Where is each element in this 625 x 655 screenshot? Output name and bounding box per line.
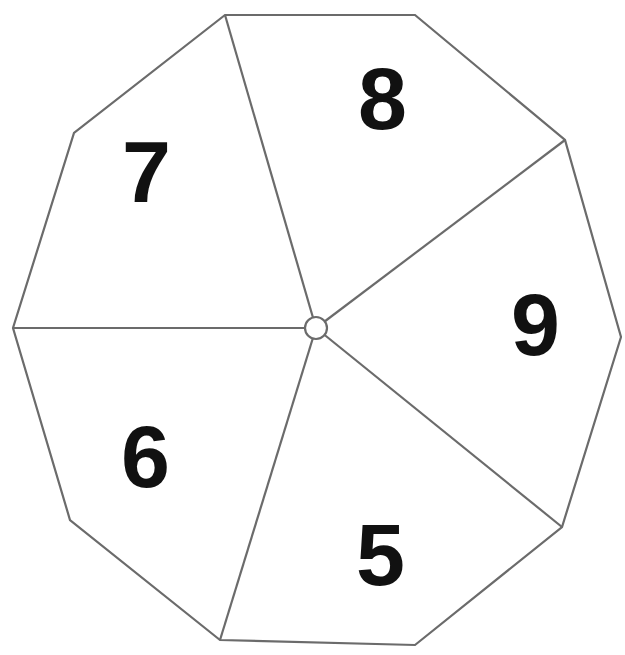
sector-label-8: 8 <box>358 49 406 148</box>
sector-label-9: 9 <box>511 275 559 374</box>
sector-label-7: 7 <box>122 122 170 221</box>
sector-wheel-diagram: 8 9 5 6 7 <box>0 0 625 655</box>
center-hub <box>305 317 327 339</box>
sector-label-5: 5 <box>356 505 404 604</box>
diagram-canvas: 8 9 5 6 7 <box>0 0 625 655</box>
sector-label-6: 6 <box>121 407 169 506</box>
